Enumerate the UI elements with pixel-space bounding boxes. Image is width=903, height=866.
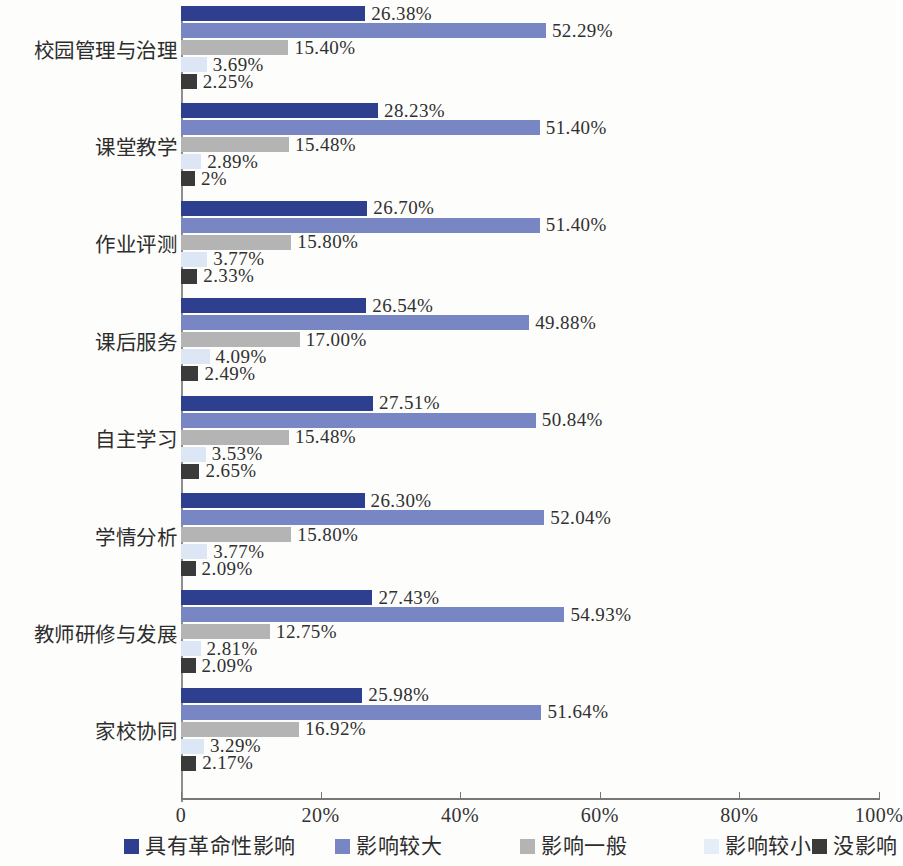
bar-row: 51.40% [181,218,540,233]
category-label: 学情分析 [1,521,177,551]
bar[interactable] [181,201,367,216]
bar-value-label: 27.51% [379,392,440,414]
bar[interactable] [181,6,365,21]
bar-row: 2.49% [181,366,198,381]
x-axis-tick-label: 0 [176,804,187,827]
bar[interactable] [181,413,536,428]
legend-item[interactable]: 没影响 [812,836,898,857]
bar-value-label: 51.64% [547,701,608,723]
x-axis-tick-mark [181,792,182,800]
bar-value-label: 51.40% [546,116,607,138]
bar-row: 52.04% [181,510,544,525]
bar[interactable] [181,739,204,754]
bar[interactable] [181,298,366,313]
legend-label: 影响一般 [541,836,627,857]
x-axis-tick-label: 80% [720,804,758,827]
x-axis-tick-mark [600,792,601,800]
bar-value-label: 26.30% [371,489,432,511]
category-label: 教师研修与发展 [1,618,177,648]
legend-swatch-icon [520,839,535,854]
bar-value-label: 2% [201,167,227,189]
legend-item[interactable]: 影响一般 [520,836,627,857]
bar-row: 2.33% [181,269,197,284]
bar[interactable] [181,561,196,576]
category-label: 作业评测 [1,228,177,258]
bar-row: 51.40% [181,120,540,135]
bar[interactable] [181,756,196,771]
bar[interactable] [181,447,206,462]
bar-value-label: 15.80% [297,523,358,545]
bar-group: 课堂教学28.23%51.40%15.48%2.89%2% [0,103,896,188]
bar-group: 作业评测26.70%51.40%15.80%3.77%2.33% [0,201,896,286]
bar-value-label: 15.80% [297,231,358,253]
bar-row: 54.93% [181,607,564,622]
bar-value-label: 54.93% [570,603,631,625]
bar-row: 52.29% [181,23,546,38]
bar[interactable] [181,641,201,656]
bar-group: 课后服务26.54%49.88%17.00%4.09%2.49% [0,298,896,383]
bar-group: 自主学习27.51%50.84%15.48%3.53%2.65% [0,396,896,481]
bar-row: 26.70% [181,201,367,216]
bar[interactable] [181,154,201,169]
x-axis-tick-mark [321,792,322,800]
bar-value-label: 2.65% [205,460,256,482]
bar-value-label: 26.70% [373,197,434,219]
legend-swatch-icon [124,839,139,854]
legend-swatch-icon [704,839,719,854]
bar-value-label: 50.84% [542,409,603,431]
bar-value-label: 15.48% [295,426,356,448]
legend-item[interactable]: 影响较小 [704,836,811,857]
bar[interactable] [181,688,362,703]
bar[interactable] [181,218,540,233]
bar[interactable] [181,366,198,381]
bar-row: 27.43% [181,590,372,605]
bar-row: 2.89% [181,154,201,169]
legend-item[interactable]: 具有革命性影响 [124,836,296,857]
bar-row: 28.23% [181,103,378,118]
bar-row: 2.65% [181,464,199,479]
bar-group: 学情分析26.30%52.04%15.80%3.77%2.09% [0,493,896,578]
x-axis-tick-label: 60% [581,804,619,827]
bar-value-label: 15.48% [295,133,356,155]
x-axis-tick-label: 100% [855,804,903,827]
bar[interactable] [181,590,372,605]
bar-row: 2.81% [181,641,201,656]
bar[interactable] [181,269,197,284]
legend-label: 影响较大 [356,836,442,857]
x-axis-tick-label: 40% [441,804,479,827]
bar-value-label: 52.29% [552,19,613,41]
bar-value-label: 25.98% [368,684,429,706]
bar[interactable] [181,103,378,118]
bar[interactable] [181,120,540,135]
bar[interactable] [181,396,373,411]
bar[interactable] [181,493,365,508]
bar[interactable] [181,74,197,89]
bar-row: 3.29% [181,739,204,754]
bar-row: 26.54% [181,298,366,313]
bar-row: 26.30% [181,493,365,508]
bar-value-label: 15.40% [294,36,355,58]
bar-value-label: 26.38% [371,2,432,24]
bar[interactable] [181,658,196,673]
bar-row: 25.98% [181,688,362,703]
category-label: 课堂教学 [1,131,177,161]
legend-label: 没影响 [833,836,898,857]
bar-value-label: 51.40% [546,214,607,236]
bar[interactable] [181,23,546,38]
category-label: 校园管理与治理 [1,34,177,64]
bar-row: 50.84% [181,413,536,428]
bar[interactable] [181,607,564,622]
bar[interactable] [181,510,544,525]
bar-group: 校园管理与治理26.38%52.29%15.40%3.69%2.25% [0,6,896,91]
bar-group: 教师研修与发展27.43%54.93%12.75%2.81%2.09% [0,590,896,675]
bar-value-label: 12.75% [276,620,337,642]
bar-row: 2.25% [181,74,197,89]
bar[interactable] [181,464,199,479]
category-label: 课后服务 [1,326,177,356]
bar[interactable] [181,171,195,186]
bar-value-label: 2.09% [202,654,253,676]
legend-item[interactable]: 影响较大 [335,836,442,857]
bar-row: 27.51% [181,396,373,411]
bar-value-label: 2.09% [202,557,253,579]
